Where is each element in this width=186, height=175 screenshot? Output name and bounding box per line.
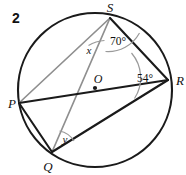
- center-label-O: O: [94, 72, 103, 86]
- circle-diagram-canvas: S R P Q O x 70° 54° y 2: [0, 0, 186, 175]
- chord-Q-R: [52, 80, 168, 152]
- problem-number: 2: [12, 10, 20, 26]
- point-label-R: R: [175, 73, 184, 88]
- point-label-P: P: [7, 96, 16, 111]
- angle-label-x: x: [86, 44, 92, 56]
- point-label-Q: Q: [43, 159, 53, 174]
- geometry-figure: S R P Q O x 70° 54° y 2: [0, 0, 186, 175]
- chord-P-Q: [19, 103, 52, 152]
- angle-label-y: y: [62, 133, 68, 145]
- angle-label-70: 70°: [110, 35, 127, 47]
- angle-label-54: 54°: [137, 72, 154, 84]
- center-point-dot: [93, 86, 97, 90]
- point-label-S: S: [107, 0, 114, 15]
